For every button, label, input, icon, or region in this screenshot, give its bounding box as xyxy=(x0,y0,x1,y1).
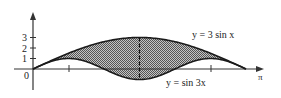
figure-region-between-curves: 3 2 1 0 π y = 3 sin x y = sin 3x xyxy=(0,0,281,98)
pi-label: π xyxy=(258,72,263,82)
y-tick-label-3: 3 xyxy=(22,32,27,43)
label-3-sin-x: y = 3 sin x xyxy=(192,29,234,40)
y-tick-label-1: 1 xyxy=(22,53,27,64)
label-sin-3x: y = sin 3x xyxy=(166,77,206,88)
chart-svg: 3 2 1 0 π y = 3 sin x y = sin 3x xyxy=(0,0,281,98)
y-axis-arrow-icon xyxy=(30,12,36,20)
origin-label: 0 xyxy=(24,70,29,81)
y-tick-label-2: 2 xyxy=(22,43,27,54)
